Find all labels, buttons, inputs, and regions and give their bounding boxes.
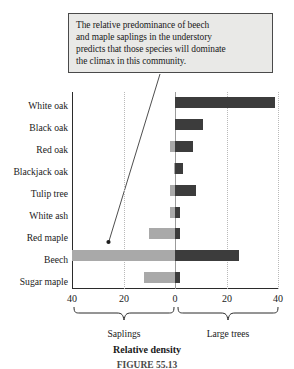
bar-large-trees-blackjack-oak (175, 163, 183, 174)
callout-line: the climax in this community. (76, 55, 266, 67)
category-label-tulip-tree: Tulip tree (0, 188, 72, 199)
category-label-red-oak: Red oak (0, 144, 72, 155)
group-label-saplings: Saplings (79, 328, 169, 339)
callout-box: The relative predominance of beech and m… (68, 13, 273, 73)
bar-row-white-ash (72, 202, 278, 224)
category-label-blackjack-oak: Blackjack oak (0, 166, 72, 177)
brace-large-trees (177, 306, 279, 322)
category-label-white-oak: White oak (0, 100, 72, 111)
callout-line: predicts that those species will dominat… (76, 43, 266, 55)
bar-large-trees-sugar-maple (175, 272, 180, 283)
bar-row-blackjack-oak (72, 158, 278, 180)
callout-line: and maple saplings in the understory (76, 31, 266, 43)
bar-row-black-oak (72, 114, 278, 136)
bar-large-trees-red-oak (175, 141, 193, 152)
bar-row-beech (72, 245, 278, 267)
callout-line: The relative predominance of beech (76, 19, 266, 31)
bar-saplings-sugar-maple (144, 272, 175, 283)
bar-row-white-oak (72, 92, 278, 114)
bar-row-red-oak (72, 136, 278, 158)
category-label-white-ash: White ash (0, 210, 72, 221)
figure-caption: FIGURE 55.13 (0, 360, 294, 369)
plot-area (72, 92, 278, 289)
category-label-black-oak: Black oak (0, 122, 72, 133)
bar-large-trees-tulip-tree (175, 185, 196, 196)
bar-row-sugar-maple (72, 267, 278, 289)
axis-title: Relative density (0, 344, 294, 355)
bar-large-trees-white-oak (175, 97, 275, 108)
xtick-label-neg40: 40 (59, 293, 85, 304)
category-label-beech: Beech (0, 254, 72, 265)
bar-large-trees-red-maple (175, 228, 180, 239)
bar-large-trees-black-oak (175, 119, 203, 130)
xtick-label-pos20: 20 (214, 293, 240, 304)
group-label-large-trees: Large trees (183, 328, 273, 339)
xtick-label-pos40: 40 (265, 293, 291, 304)
brace-saplings (72, 306, 176, 322)
bar-row-red-maple (72, 223, 278, 245)
xtick-label-zero: 0 (162, 293, 188, 304)
bar-large-trees-white-ash (175, 207, 180, 218)
xtick-label-neg20: 20 (111, 293, 137, 304)
bar-saplings-red-maple (149, 228, 175, 239)
bar-saplings-beech (72, 250, 175, 261)
bar-row-tulip-tree (72, 180, 278, 202)
category-label-sugar-maple: Sugar maple (0, 276, 72, 287)
figure-container: The relative predominance of beech and m… (0, 0, 294, 369)
gridline-pos40 (278, 92, 279, 289)
bar-large-trees-beech (175, 250, 239, 261)
category-label-red-maple: Red maple (0, 232, 72, 243)
